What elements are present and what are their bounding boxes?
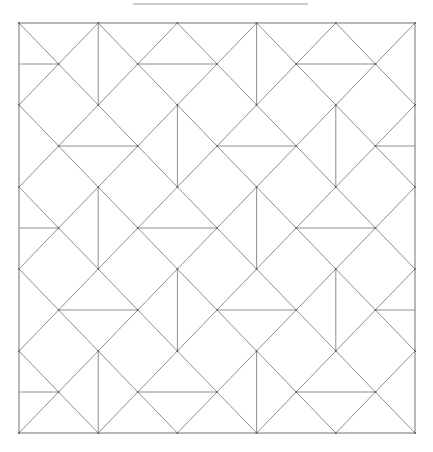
diagonal-edge	[177, 351, 217, 392]
diagonal-edge	[375, 351, 415, 392]
diagonal-edge	[375, 105, 415, 146]
diagonal-edge	[138, 64, 178, 105]
diagonal-edge	[217, 351, 257, 392]
vertex-dot	[414, 432, 416, 434]
vertex-dot	[256, 432, 258, 434]
vertex-dot	[335, 104, 337, 106]
diagonal-edge	[59, 105, 99, 146]
diagonal-edge	[138, 105, 178, 146]
diagonal-edge	[138, 187, 178, 228]
vertex-dot	[216, 227, 218, 229]
vertex-dot	[97, 22, 99, 24]
diagonal-edge	[217, 187, 257, 228]
vertex-dot	[256, 186, 258, 188]
diagonal-edge	[98, 351, 138, 392]
diagonal-edge	[59, 392, 99, 433]
vertex-dot	[176, 186, 178, 188]
diagonal-edge	[375, 64, 415, 105]
diagonal-edge	[375, 392, 415, 433]
vertex-dot	[295, 309, 297, 311]
diagonal-edge	[59, 23, 99, 64]
diagonal-edge	[217, 105, 257, 146]
vertex-dot	[256, 104, 258, 106]
vertex-dot	[374, 309, 376, 311]
diagonal-edge	[98, 228, 138, 269]
vertex-dot	[374, 63, 376, 65]
diagonal-edge	[19, 392, 59, 433]
diagonal-edge	[336, 310, 376, 351]
vertex-dot	[137, 63, 139, 65]
diagonal-edge	[19, 146, 59, 187]
diagonal-edge	[19, 310, 59, 351]
tiling-diagram	[0, 0, 433, 452]
diagonal-edge	[59, 351, 99, 392]
diagonal-edge	[217, 64, 257, 105]
diagonal-edge	[336, 105, 376, 146]
diagonal-edge	[138, 23, 178, 64]
diagonal-edge	[138, 310, 178, 351]
diagonal-edge	[177, 105, 217, 146]
vertex-dot	[374, 227, 376, 229]
diagonal-edge	[217, 392, 257, 433]
vertex-dot	[58, 391, 60, 393]
vertex-dot	[335, 432, 337, 434]
vertex-dot	[256, 22, 258, 24]
vertex-dot	[256, 350, 258, 352]
vertex-dot	[414, 268, 416, 270]
diagonal-edge	[375, 269, 415, 310]
diagonal-edge	[336, 228, 376, 269]
diagonal-edge	[177, 269, 217, 310]
diagonal-edge	[336, 64, 376, 105]
vertex-dot	[335, 350, 337, 352]
diagonal-edge	[177, 23, 217, 64]
vertex-dot	[97, 268, 99, 270]
diagonal-edge	[296, 105, 336, 146]
diagonal-edge	[257, 351, 297, 392]
vertex-dot	[18, 22, 20, 24]
vertex-dot	[18, 350, 20, 352]
vertex-dot	[414, 104, 416, 106]
diagonal-edge	[177, 64, 217, 105]
diagonal-edge	[19, 64, 59, 105]
vertex-dot	[176, 104, 178, 106]
diagonal-edge	[336, 351, 376, 392]
diagonal-edge	[177, 392, 217, 433]
diagonal-edge	[296, 64, 336, 105]
diagonal-edge	[257, 228, 297, 269]
vertex-dot	[216, 145, 218, 147]
diagonal-edge	[375, 310, 415, 351]
vertex-dot	[58, 63, 60, 65]
diagonal-edge	[19, 187, 59, 228]
diagonal-edge	[19, 351, 59, 392]
vertex-dot	[335, 186, 337, 188]
diagonal-edge	[98, 146, 138, 187]
diagonal-edge	[98, 64, 138, 105]
diagonal-edge	[19, 269, 59, 310]
diagonal-edge	[257, 187, 297, 228]
diagonal-edge	[257, 146, 297, 187]
diagonal-edge	[296, 146, 336, 187]
diagonal-edge	[98, 187, 138, 228]
diagonal-edge	[59, 228, 99, 269]
vertex-dot	[58, 145, 60, 147]
vertex-dot	[295, 227, 297, 229]
diagonal-edge	[296, 269, 336, 310]
diagonal-edge	[59, 310, 99, 351]
diagonal-edge	[177, 187, 217, 228]
diagonal-edge	[296, 228, 336, 269]
vertex-dot	[295, 391, 297, 393]
vertex-dot	[97, 350, 99, 352]
diagonal-edge	[296, 392, 336, 433]
diagonal-edge	[19, 23, 59, 64]
diagonal-edge	[138, 146, 178, 187]
diagonal-edge	[59, 146, 99, 187]
diagonal-edge	[257, 269, 297, 310]
diagonal-edge	[177, 310, 217, 351]
diagonal-edge	[138, 228, 178, 269]
diagonal-edge	[98, 269, 138, 310]
vertex-dot	[216, 391, 218, 393]
vertex-dot	[414, 22, 416, 24]
diagonal-edge	[375, 23, 415, 64]
vertex-dot	[414, 186, 416, 188]
diagonal-edge	[59, 64, 99, 105]
